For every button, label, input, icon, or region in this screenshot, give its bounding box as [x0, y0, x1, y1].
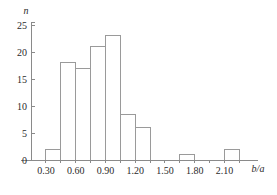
y-axis-title: n [24, 5, 29, 16]
x-tick-label: 0.90 [97, 165, 115, 176]
y-tick-label: 25 [17, 20, 27, 31]
y-tick-label: 10 [17, 101, 27, 112]
histogram-bar [180, 155, 195, 160]
histogram-bar [46, 149, 61, 160]
x-tick-label: 1.80 [186, 165, 204, 176]
histogram-bar [76, 68, 91, 160]
histogram-bar [224, 149, 239, 160]
y-tick-label: 0 [22, 155, 27, 166]
histogram-bar [61, 63, 76, 160]
y-tick-label: 15 [17, 74, 27, 85]
y-axis-tick-labels: 0510152025 [17, 20, 27, 166]
y-tick-label: 5 [22, 128, 27, 139]
x-tick-label: 2.10 [216, 165, 234, 176]
histogram-bar [120, 114, 135, 160]
histogram-bars [46, 36, 239, 160]
y-axis [31, 22, 35, 160]
y-tick-label: 20 [17, 47, 27, 58]
histogram-bar [135, 128, 150, 160]
x-tick-label: 1.20 [126, 165, 144, 176]
histogram-figure: 0510152025 0.300.600.901.201.501.802.10 … [0, 0, 277, 195]
histogram-bar [91, 47, 106, 160]
x-axis-title: b/a [252, 163, 265, 174]
x-tick-label: 0.60 [67, 165, 85, 176]
x-tick-label: 1.50 [156, 165, 174, 176]
histogram-plot: 0510152025 0.300.600.901.201.501.802.10 … [0, 0, 277, 195]
x-axis [21, 160, 258, 163]
x-axis-tick-labels: 0.300.600.901.201.501.802.10 [37, 165, 233, 176]
x-tick-label: 0.30 [37, 165, 55, 176]
histogram-bar [105, 36, 120, 160]
